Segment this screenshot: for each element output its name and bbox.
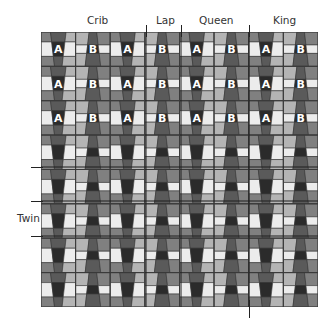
- block-letter: B: [296, 78, 304, 91]
- block-letter: B: [89, 78, 97, 91]
- block-letter: B: [89, 43, 97, 56]
- twin-bottom-marker: [31, 236, 43, 237]
- king-left-marker-top: [249, 25, 250, 37]
- label-twin: Twin: [17, 212, 40, 224]
- block-letter: B: [296, 43, 304, 56]
- block-letter: A: [262, 43, 271, 56]
- block-letter: B: [227, 78, 235, 91]
- block-letter: A: [193, 112, 202, 125]
- block-letter: B: [89, 112, 97, 125]
- twin-mid-marker: [31, 201, 43, 202]
- block-letter: A: [54, 78, 63, 91]
- block-letter: A: [54, 43, 63, 56]
- block-letter: B: [227, 43, 235, 56]
- label-crib: Crib: [87, 14, 108, 26]
- block-letter: A: [262, 112, 271, 125]
- block-letter: A: [193, 78, 202, 91]
- label-king: King: [273, 14, 296, 26]
- quilt-grid: ABABABABABABABABABABABAB: [41, 32, 318, 307]
- block-letter: B: [227, 112, 235, 125]
- block-letter: A: [193, 43, 202, 56]
- quilt-diagram: ABABABABABABABABABABABAB: [41, 32, 318, 307]
- block-letter: A: [123, 78, 132, 91]
- block-letter: A: [123, 43, 132, 56]
- label-queen: Queen: [199, 14, 234, 26]
- block-letter: A: [262, 78, 271, 91]
- block-letter: B: [296, 112, 304, 125]
- block-letter: B: [158, 78, 166, 91]
- lap-right-marker: [181, 25, 182, 37]
- lap-left-marker: [146, 25, 147, 37]
- label-lap: Lap: [156, 14, 175, 26]
- king-left-marker-bottom: [249, 300, 250, 318]
- block-letter: A: [54, 112, 63, 125]
- block-letter: A: [123, 112, 132, 125]
- block-letter: B: [158, 43, 166, 56]
- twin-top-marker: [31, 167, 43, 168]
- block-letter: B: [158, 112, 166, 125]
